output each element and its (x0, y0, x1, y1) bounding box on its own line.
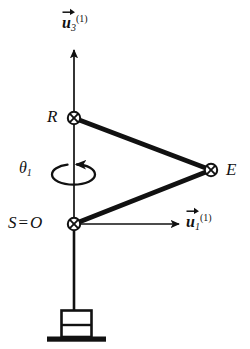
joint-marker-SO (68, 218, 80, 230)
vector-overbar-arrow-icon (62, 7, 75, 15)
u1-superscript: (1) (200, 212, 212, 223)
point-label-R: R (47, 108, 57, 125)
theta1-label: θ1 (19, 160, 32, 178)
u1-base-symbol: u (186, 213, 195, 230)
joint-marker-E (205, 164, 217, 176)
point-label-S-equals-O: S=O (8, 214, 42, 231)
joint-marker-R (68, 112, 80, 124)
theta-symbol: θ (19, 159, 27, 176)
point-label-S: S (8, 213, 17, 232)
u1-vector-glyph: u1(1) (186, 213, 212, 232)
u1-axis-label: u1(1) (186, 213, 212, 232)
point-label-O: O (30, 213, 42, 232)
ground-bar (47, 337, 106, 342)
u3-superscript: (1) (76, 13, 88, 24)
u3-base-symbol: u (62, 14, 71, 31)
equals-sign: = (17, 213, 31, 232)
theta-subscript: 1 (27, 167, 32, 178)
u3-vector-glyph: u3(1) (62, 14, 88, 33)
vector-overbar-arrow-icon (186, 206, 199, 214)
figure-canvas: u3(1) u1(1) θ1 R E S=O (0, 0, 250, 349)
diagram-svg (0, 0, 250, 349)
pedestal-box (62, 311, 92, 338)
u3-axis-label: u3(1) (62, 14, 88, 33)
link-r-e (74, 118, 211, 170)
point-label-E: E (226, 161, 236, 178)
